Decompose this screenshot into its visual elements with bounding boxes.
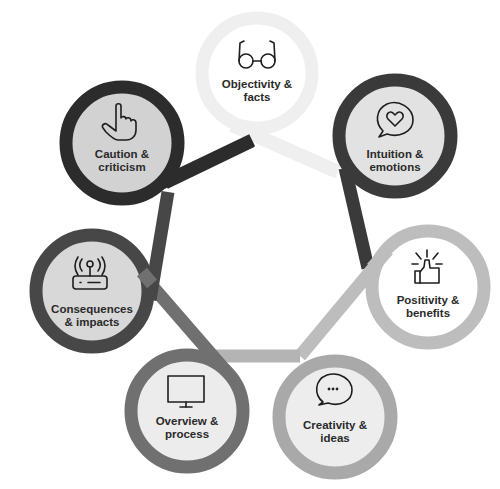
connector-overview-overlay (142, 272, 152, 284)
node-creativity-line1: Creativity & (303, 419, 367, 431)
node-caution-line2: criticism (98, 161, 145, 173)
node-objectivity-line1: Objectivity & (222, 78, 292, 90)
node-overview: Overview & process (131, 355, 243, 467)
node-consequences: Consequences & impacts (36, 235, 148, 347)
node-intuition: Intuition & emotions (339, 80, 451, 192)
node-overview-line2: process (165, 428, 209, 440)
node-objectivity-line2: facts (244, 91, 271, 103)
node-positivity-line1: Positivity & (397, 294, 460, 306)
node-creativity-line2: ideas (320, 432, 349, 444)
node-caution-line1: Caution & (95, 148, 149, 160)
node-consequences-line2: & impacts (65, 316, 120, 328)
node-intuition-line1: Intuition & (367, 148, 424, 160)
node-consequences-line1: Consequences (51, 303, 133, 315)
thinking-cycle-diagram: Objectivity & facts Intuition & emotions… (0, 0, 500, 489)
node-creativity: Creativity & ideas (279, 361, 391, 473)
node-positivity-line2: benefits (406, 307, 450, 319)
node-caution: Caution & criticism (66, 87, 178, 199)
node-intuition-line2: emotions (369, 161, 420, 173)
node-objectivity: Objectivity & facts (202, 18, 312, 128)
node-positivity: Positivity & benefits (372, 231, 484, 343)
node-overview-line1: Overview & (156, 415, 219, 427)
